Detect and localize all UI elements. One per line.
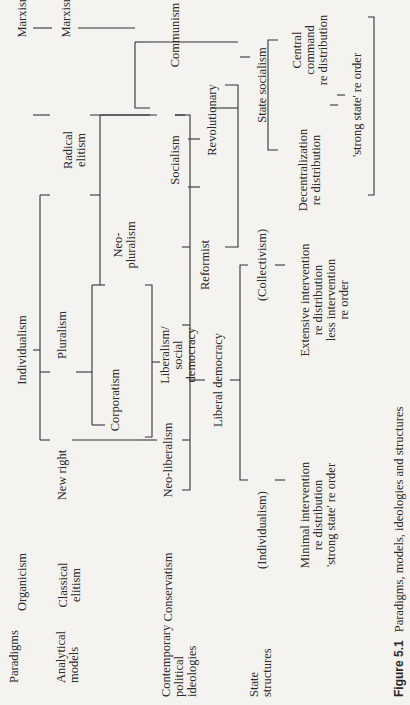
book-page: Paradigms Analytical models Contemporary… <box>0 0 410 705</box>
figure-number: Figure 5.1 <box>392 640 406 697</box>
figure-caption: Figure 5.1Paradigms, models, ideologies … <box>392 407 407 697</box>
state-socialism-brackets <box>0 0 410 705</box>
figure-caption-text: Paradigms, models, ideologies and struct… <box>392 407 406 633</box>
figure-diagram: Paradigms Analytical models Contemporary… <box>0 0 410 705</box>
